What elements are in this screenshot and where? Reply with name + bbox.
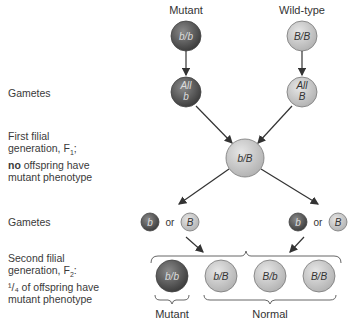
f2-genotype: b/b [165,271,179,282]
f2-label: Second filial generation, F2: ¹/₄ of off… [8,252,99,305]
f2-genotype: b/B [213,271,228,282]
gamete-text: b [183,91,189,102]
or-text: or [314,217,324,228]
mutant-label: Mutant [146,4,226,16]
f2-genotype: B/B [311,271,327,282]
arrow [186,237,203,252]
f1-label-line: First filial [8,130,92,142]
normal-label: Normal [252,308,287,320]
f1-bold: no [8,159,21,171]
gamete-text: b [147,217,153,228]
f1-text: offspring have [21,159,90,171]
f1-label: First filial generation, F1; no offsprin… [8,130,92,183]
gamete-text: All [179,80,192,91]
arrow [258,106,292,143]
wildtype-label: Wild-type [262,4,342,16]
arrow [179,169,229,204]
gamete-text: All [295,80,308,91]
arrow [290,237,304,252]
f1-genotype: b/B [237,153,252,164]
f2-label-line: ¹/₄ of offspring have [8,281,99,293]
gamete-text: B [299,91,306,102]
f2-label-line: mutant phenotype [8,293,99,305]
f2-label-line: Second filial [8,252,99,264]
arrow [196,106,232,143]
f1-label-line: mutant phenotype [8,171,92,183]
wildtype-genotype: B/B [294,31,310,42]
f2-text: : [74,264,77,276]
f1-text: ; [74,142,77,154]
gamete-text: B [335,217,342,228]
f2-text: generation, F [8,264,70,276]
f1-gametes-label: Gametes [8,216,51,228]
f1-label-line: generation, F1; [8,142,92,159]
gamete-text: B [187,217,194,228]
f1-label-line: no offspring have [8,159,92,171]
arrow [261,169,318,204]
mutant-bracket [155,295,189,304]
f2-genotype: B/b [262,271,277,282]
mutant-label: Mutant [155,308,189,320]
f2-label-line: generation, F2: [8,264,99,281]
normal-bracket [204,295,336,304]
or-text: or [166,217,176,228]
mutant-genotype: b/b [179,31,193,42]
f1-text: generation, F [8,142,70,154]
gamete-text: b [295,217,301,228]
gametes-label: Gametes [8,87,51,99]
